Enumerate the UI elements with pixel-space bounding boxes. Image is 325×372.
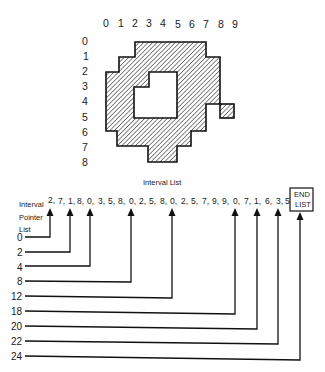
interval-value: 9, (212, 196, 219, 206)
interval-value: 2, (48, 195, 55, 205)
interval-value: 0, (170, 196, 177, 206)
interval-value: 9, (222, 196, 229, 206)
arrow-up-icon (47, 208, 54, 216)
interval-value: 5, (108, 196, 115, 206)
interval-value: 2, (181, 196, 188, 206)
column-label: 0 (103, 17, 109, 29)
arrow-up-icon (128, 208, 135, 216)
row-label: 6 (82, 126, 88, 138)
pointer-label: 20 (11, 321, 23, 332)
column-label: 6 (189, 18, 195, 30)
pointer-connectors (25, 215, 300, 360)
row-label: 3 (82, 80, 88, 92)
row-label: 7 (82, 141, 88, 153)
pointer-label: 12 (11, 291, 23, 302)
column-label: 9 (232, 18, 238, 30)
hatched-isolated-cell (220, 104, 234, 118)
interval-value: 6, (265, 196, 272, 206)
column-label: 5 (175, 18, 181, 30)
column-label: 3 (146, 17, 152, 29)
interval-value: 1, (254, 196, 261, 206)
interval-value: 8, (118, 196, 125, 206)
row-label: 5 (82, 111, 88, 123)
pointer-label: 24 (11, 351, 23, 362)
interval-value: 0, (129, 196, 136, 206)
row-label: 8 (82, 156, 88, 168)
row-label: 0 (82, 35, 88, 47)
arrow-up-icon (275, 208, 282, 216)
interval-value: 8, (77, 196, 84, 206)
hatched-region (106, 42, 220, 162)
interval-value: 1, (68, 196, 75, 206)
interval-value: 5 (285, 196, 290, 206)
arrow-up-icon (169, 208, 176, 216)
pointer-label: 0 (17, 232, 23, 243)
arrow-up-icon (67, 208, 74, 216)
interval-value: 0, (87, 196, 94, 206)
interval-value: 7, (244, 196, 251, 206)
pointer-label: 4 (17, 262, 23, 273)
end-list-box: END LIST (290, 188, 313, 211)
arrow-up-icon (297, 212, 304, 220)
interval-value: 2, (139, 196, 146, 206)
row-labels: 0 1 2 3 4 5 6 7 8 (82, 35, 89, 168)
pointer-label: 18 (11, 306, 23, 317)
pointer-list-label-line1: Interval (19, 200, 44, 209)
pointer-labels: 0 2 4 8 12 18 20 22 24 (11, 232, 23, 362)
interval-value: 7, (202, 196, 209, 206)
arrow-up-icon (232, 208, 239, 216)
end-list-label-line1: END (294, 190, 310, 199)
arrow-icons (47, 208, 304, 220)
pointer-list-label-line2: Pointer (19, 213, 43, 222)
interval-value: 3, (276, 196, 283, 206)
interval-list-title: Interval List (143, 178, 182, 187)
column-label: 1 (118, 17, 124, 29)
arrow-up-icon (87, 208, 94, 216)
column-label: 4 (160, 17, 166, 29)
pointer-label: 8 (17, 276, 23, 287)
column-labels: 0 1 2 3 4 5 6 7 8 9 (103, 17, 238, 30)
interval-value: 3, (98, 196, 105, 206)
row-label: 1 (83, 50, 89, 62)
interval-values: 2, 7, 1, 8, 0, 3, 5, 8, 0, 2, 5, 8, 0, 2… (48, 195, 290, 206)
row-label: 4 (82, 95, 88, 107)
arrow-up-icon (254, 208, 261, 216)
interval-value: 8, (160, 196, 167, 206)
pointer-label: 2 (17, 247, 23, 258)
pointer-label: 22 (11, 336, 23, 347)
row-label: 2 (82, 65, 88, 77)
interval-list-diagram: 0 1 2 3 4 5 6 7 8 9 0 1 2 3 4 5 6 7 8 In… (0, 0, 325, 372)
end-list-label-line2: LIST (295, 200, 311, 209)
column-label: 7 (203, 18, 209, 30)
interval-value: 7, (58, 196, 65, 206)
column-label: 2 (132, 17, 138, 29)
interval-value: 5, (149, 196, 156, 206)
interval-value: 0, (233, 196, 240, 206)
column-label: 8 (218, 18, 224, 30)
interval-value: 5, (191, 196, 198, 206)
